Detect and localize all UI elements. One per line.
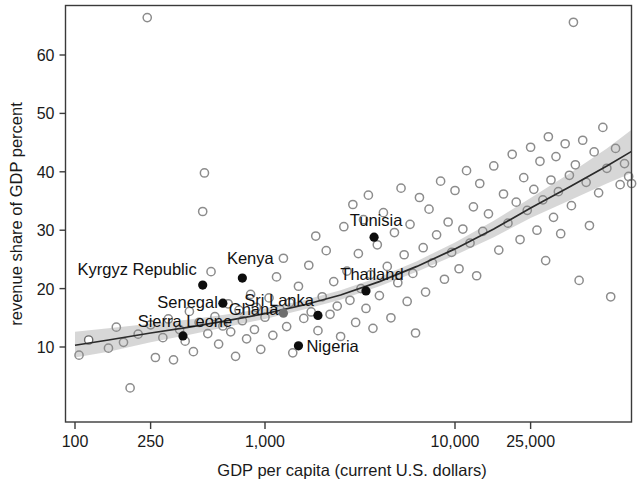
country-label: Kyrgyz Republic [77, 260, 196, 278]
y-tick-label: 10 [37, 339, 55, 356]
country-label: Sri Lanka [244, 291, 315, 309]
highlighted-country-point [294, 341, 303, 350]
country-label: Sierra Leone [138, 312, 232, 330]
x-tick-label: 100 [62, 433, 89, 450]
highlighted-country-point [218, 299, 227, 308]
highlighted-country-point [178, 331, 187, 340]
x-tick-label: 10,000 [431, 433, 480, 450]
y-tick-label: 60 [37, 47, 55, 64]
highlighted-country-point [361, 286, 370, 295]
x-tick-label: 25,000 [506, 433, 555, 450]
country-label: Senegal [157, 293, 218, 311]
scatter-plot: 102030405060 1002501,00010,00025,000 Kyr… [0, 0, 639, 484]
country-label: Kenya [227, 249, 275, 267]
y-tick-label: 50 [37, 105, 55, 122]
y-tick-label: 30 [37, 222, 55, 239]
x-tick-label: 1,000 [245, 433, 285, 450]
country-label: Tunisia [350, 211, 403, 229]
highlighted-country-point [238, 273, 247, 282]
chart-figure: 102030405060 1002501,00010,00025,000 Kyr… [0, 0, 639, 484]
highlighted-country-point [313, 311, 322, 320]
country-label: Thailand [340, 265, 403, 283]
y-axis-title: revenue share of GDP percent [7, 102, 25, 326]
x-axis-title: GDP per capita (current U.S. dollars) [217, 461, 486, 479]
country-label: Nigeria [306, 337, 359, 355]
highlighted-country-point [198, 281, 207, 290]
y-tick-label: 20 [37, 281, 55, 298]
highlighted-country-point [369, 233, 378, 242]
chart-background [0, 0, 639, 484]
y-tick-label: 40 [37, 164, 55, 181]
highlighted-country-point [279, 309, 288, 318]
x-tick-label: 250 [137, 433, 164, 450]
